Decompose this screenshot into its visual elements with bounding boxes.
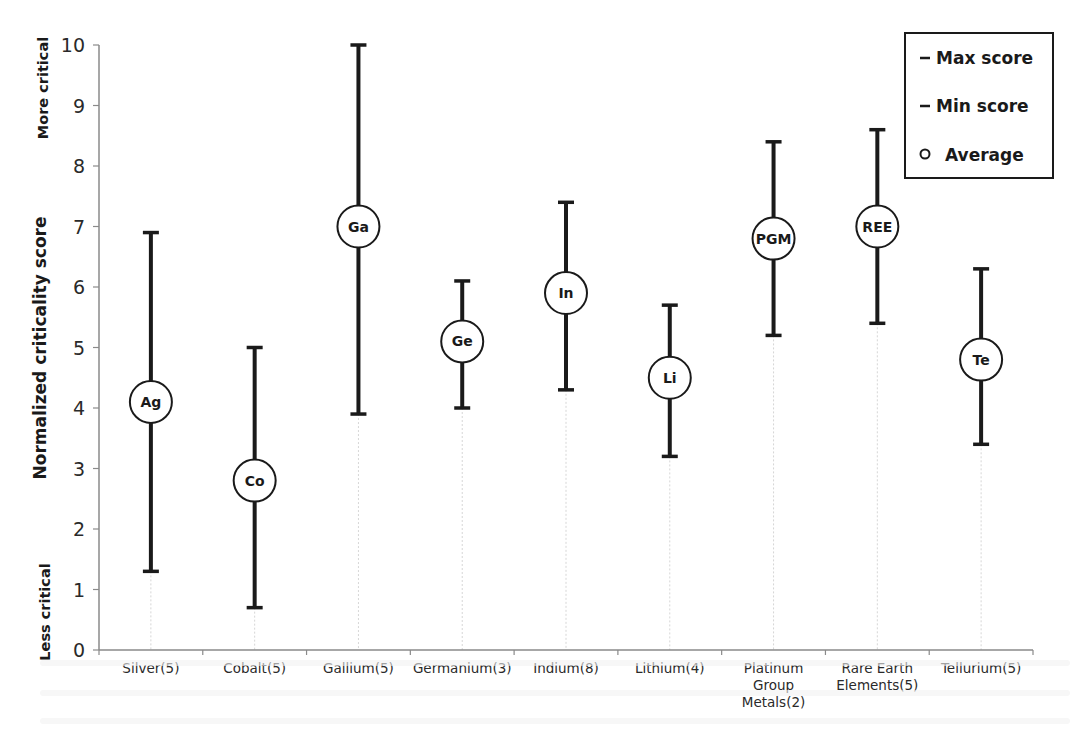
legend: Max score Min score Average [905, 33, 1053, 178]
element-symbol: Ga [348, 219, 369, 235]
error-bar-in: In [545, 202, 587, 390]
axes: 012345678910 [61, 34, 1033, 661]
y-tick-label: 10 [61, 34, 85, 56]
legend-min-score: Min score [936, 96, 1029, 116]
legend-max-score: Max score [936, 48, 1033, 68]
element-symbol: REE [862, 219, 892, 235]
y-tick-label: 7 [73, 216, 85, 238]
criticality-chart: 012345678910 AgCoGaGeInLiPGMREETe Silver… [0, 0, 1080, 742]
element-symbol: PGM [756, 231, 792, 247]
error-bar-ag: Ag [130, 233, 172, 572]
y-axis-title: Normalized criticality score [30, 216, 50, 479]
y-tick-label: 9 [73, 95, 85, 117]
error-bar-ge: Ge [441, 281, 483, 408]
element-symbol: Ge [452, 333, 473, 349]
y-tick-label: 5 [73, 337, 85, 359]
element-symbol: Ag [140, 394, 161, 410]
less-critical-label: Less critical [37, 563, 53, 660]
y-tick-label: 4 [73, 397, 85, 419]
y-tick-label: 3 [73, 458, 85, 480]
x-category-label: PlatinumGroupMetals(2) [742, 660, 805, 710]
bleed-through-text [40, 718, 1070, 724]
y-tick-label: 2 [73, 518, 85, 540]
y-tick-label: 1 [73, 579, 85, 601]
bleed-through-text [40, 690, 1070, 696]
error-bar-ree: REE [856, 130, 898, 324]
error-bar-co: Co [234, 348, 276, 608]
error-bar-ga: Ga [337, 45, 379, 414]
legend-average: Average [945, 145, 1024, 165]
y-tick-label: 0 [73, 639, 85, 661]
y-tick-label: 8 [73, 155, 85, 177]
element-symbol: Li [663, 370, 677, 386]
bleed-through-text [40, 660, 1070, 666]
error-bar-li: Li [649, 305, 691, 456]
element-symbol: In [558, 285, 573, 301]
error-bar-te: Te [960, 269, 1002, 444]
error-bar-pgm: PGM [753, 142, 795, 336]
more-critical-label: More critical [35, 37, 51, 139]
element-symbol: Te [973, 352, 990, 368]
element-symbol: Co [245, 473, 265, 489]
category-labels: Silver(5)Cobalt(5)Gallium(5)Germanium(3)… [122, 660, 1021, 710]
y-tick-label: 6 [73, 276, 85, 298]
